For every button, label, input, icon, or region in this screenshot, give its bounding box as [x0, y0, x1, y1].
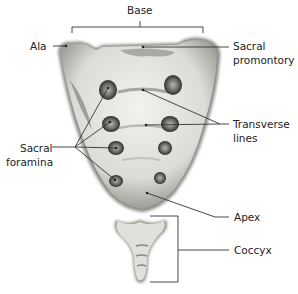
label-ala: Ala: [30, 39, 47, 53]
label-sacral-promontory-line1: Sacral: [233, 39, 266, 53]
label-coccyx: Coccyx: [234, 243, 272, 257]
coccyx-bone: [115, 220, 167, 283]
label-sacral-promontory-line2: promontory: [233, 53, 295, 67]
label-sacral-foramina-line1: Sacral: [20, 141, 53, 155]
label-transverse-lines-line1: Transverse: [233, 117, 290, 131]
label-apex: Apex: [234, 210, 260, 224]
label-sacral-foramina-line2: foramina: [6, 155, 53, 169]
sacrum-bone: [58, 38, 220, 212]
label-base: Base: [127, 3, 153, 17]
label-transverse-lines-line2: lines: [233, 131, 257, 145]
